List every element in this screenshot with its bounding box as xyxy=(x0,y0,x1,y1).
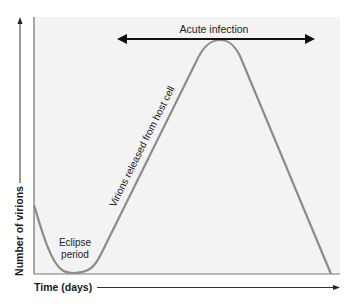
x-axis-arrow xyxy=(97,285,340,290)
acute-infection-label: Acute infection xyxy=(180,23,249,35)
virion-growth-diagram: Acute infection Virions released from ho… xyxy=(0,0,357,306)
plot-area xyxy=(34,17,340,274)
y-axis-label: Number of virions xyxy=(13,186,25,276)
arrowhead-up-icon xyxy=(18,17,23,24)
eclipse-label-line2: period xyxy=(61,249,89,260)
eclipse-label-line1: Eclipse xyxy=(59,237,92,248)
x-axis-label: Time (days) xyxy=(34,281,92,293)
y-axis-arrow xyxy=(18,17,23,183)
arrowhead-right-icon xyxy=(333,285,340,290)
